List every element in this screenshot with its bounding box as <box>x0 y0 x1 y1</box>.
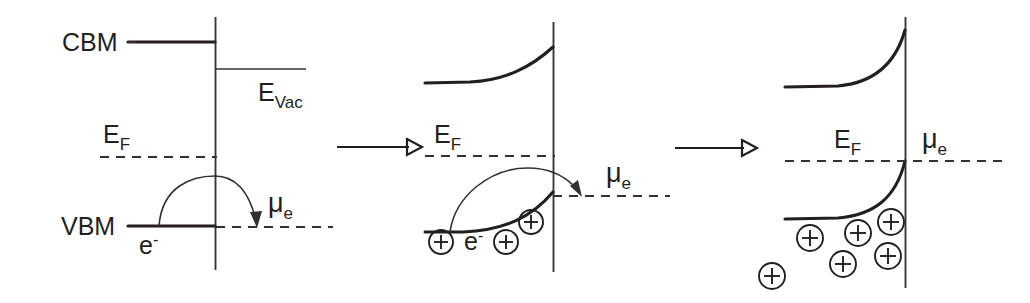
mu-e-label-panel2: μe <box>606 158 631 193</box>
band-diagram-figure: CBM EVac EF VBM e- μe <box>0 0 1030 303</box>
fermi-label-panel2: EF <box>434 120 461 154</box>
electron-label-panel2: e- <box>464 227 483 255</box>
hole-charge <box>759 263 785 289</box>
electron-transfer-arrowhead-panel2 <box>570 180 582 197</box>
transition-arrow-2 <box>675 140 757 156</box>
vbm-band-edge-panel2 <box>425 192 553 232</box>
fermi-label-panel1: EF <box>103 120 130 154</box>
arrow-2-head <box>742 140 757 156</box>
fermi-label-panel3: EF <box>834 125 861 159</box>
cbm-label: CBM <box>62 28 118 56</box>
evac-label: EVac <box>258 78 303 112</box>
hole-charge <box>429 230 453 254</box>
hole-charge <box>797 225 823 251</box>
cbm-band-edge-panel3 <box>785 30 905 87</box>
cbm-band-edge-panel2 <box>425 47 553 83</box>
hole-charge <box>494 230 518 254</box>
electron-label-panel1: e- <box>139 231 158 259</box>
panel-flat-band: CBM EVac EF VBM e- μe <box>61 17 333 270</box>
hole-charge <box>878 209 904 235</box>
hole-charge <box>875 243 901 269</box>
hole-charge <box>845 220 871 246</box>
hole-charge <box>830 251 856 277</box>
arrow-1-head <box>407 139 422 155</box>
transition-arrow-1 <box>337 139 422 155</box>
panel-initial-bending: EF e- μe <box>425 22 670 272</box>
mu-e-label-panel3: μe <box>922 124 947 159</box>
electron-transfer-arc-panel1 <box>159 176 256 226</box>
electron-transfer-arrowhead-panel1 <box>250 211 262 228</box>
panel-equilibrium: EF μe <box>759 17 1005 289</box>
mu-e-label-panel1: μe <box>268 188 293 223</box>
vbm-label: VBM <box>61 212 115 240</box>
